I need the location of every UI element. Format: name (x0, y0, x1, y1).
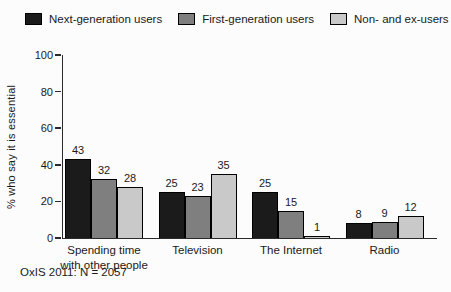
x-axis-category-line: The Internet (260, 243, 322, 258)
legend-label-non-and-ex-users: Non- and ex-users (354, 13, 449, 25)
legend-swatch-first-generation-users (178, 13, 195, 25)
bar-non-and-ex-users-4 (398, 216, 424, 238)
y-axis-tick-label: 20 (41, 195, 53, 207)
bar-next-generation-users-4 (346, 223, 372, 238)
chart-legend: Next-generation users First-generation u… (25, 13, 449, 25)
source-note: OxIS 2011: N = 2057 (20, 266, 127, 278)
y-axis-title: % who say it is essential (5, 85, 17, 209)
y-axis-tick-label: 0 (47, 232, 53, 244)
bar-value-label: 8 (355, 208, 361, 220)
bar-chart-figure: Next-generation users First-generation u… (0, 0, 451, 292)
y-axis-tick-mark (55, 237, 61, 239)
y-axis-tick-mark (55, 127, 61, 129)
legend-label-next-generation-users: Next-generation users (49, 13, 162, 25)
y-axis-tick-label: 60 (41, 122, 53, 134)
y-axis-tick-label: 100 (35, 49, 53, 61)
x-axis-category-label: Radio (369, 243, 399, 258)
y-axis-tick-mark (55, 164, 61, 166)
bar-value-label: 23 (191, 181, 203, 193)
x-axis-category-line: Spending time (60, 243, 148, 258)
bar-next-generation-users-2 (159, 192, 185, 238)
plot-area: 020406080100433228Spending timewith othe… (62, 55, 437, 239)
y-axis-tick-mark (55, 91, 61, 93)
bar-first-generation-users-1 (91, 179, 117, 238)
y-axis-tick-mark (55, 201, 61, 203)
x-axis-category-line: Television (172, 243, 223, 258)
bar-value-label: 32 (98, 164, 110, 176)
bar-non-and-ex-users-2 (211, 174, 237, 238)
bar-value-label: 28 (124, 172, 136, 184)
x-axis-category-label: Television (172, 243, 223, 258)
bar-non-and-ex-users-3 (304, 236, 330, 238)
bar-value-label: 15 (285, 196, 297, 208)
bar-non-and-ex-users-1 (117, 187, 143, 238)
legend-item-first-generation-users: First-generation users (178, 13, 314, 25)
x-axis-category-line: Radio (369, 243, 399, 258)
bar-value-label: 25 (165, 177, 177, 189)
bar-value-label: 35 (217, 159, 229, 171)
bar-value-label: 12 (404, 201, 416, 213)
legend-swatch-next-generation-users (25, 13, 42, 25)
bar-first-generation-users-4 (372, 222, 398, 238)
bar-first-generation-users-3 (278, 211, 304, 238)
legend-swatch-non-and-ex-users (330, 13, 347, 25)
y-axis-tick-mark (55, 54, 61, 56)
bar-next-generation-users-3 (252, 192, 278, 238)
x-axis-category-label: The Internet (260, 243, 322, 258)
legend-item-non-and-ex-users: Non- and ex-users (330, 13, 449, 25)
legend-item-next-generation-users: Next-generation users (25, 13, 162, 25)
bar-value-label: 1 (314, 221, 320, 233)
bar-value-label: 9 (381, 207, 387, 219)
bar-value-label: 43 (72, 144, 84, 156)
y-axis-tick-label: 40 (41, 159, 53, 171)
bar-value-label: 25 (259, 177, 271, 189)
y-axis-tick-label: 80 (41, 86, 53, 98)
bar-first-generation-users-2 (185, 196, 211, 238)
legend-label-first-generation-users: First-generation users (202, 13, 314, 25)
bar-next-generation-users-1 (65, 159, 91, 238)
